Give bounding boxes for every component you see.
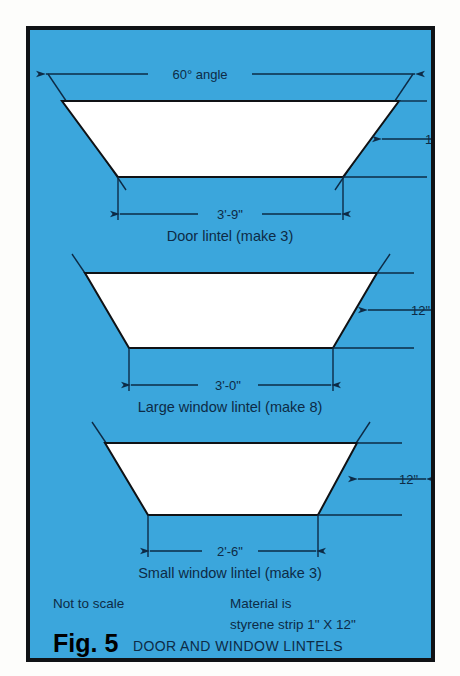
small-window-lintel-shape [105,443,357,515]
small-window-lintel-caption: Small window lintel (make 3) [138,565,322,581]
small-window-width-label: 2'-6" [217,544,243,559]
door-lintel-height-label: 12" [425,132,431,147]
small-window-width-dimension: 2'-6" [148,515,318,559]
small-window-height-label: 12" [399,472,418,487]
figure-title: DOOR AND WINDOW LINTELS [133,638,343,654]
small-window-lintel-group: 12" 2'-6" Small window lintel (make 3) [92,422,426,581]
door-lintel-width-label: 3'-9" [217,207,243,222]
material-note-line1: Material is [230,596,292,611]
figure-panel: 60° angle 12" [26,26,435,662]
material-note-line2: styrene strip 1" X 12" [230,617,356,632]
door-lintel-group: 60° angle 12" [46,67,431,244]
large-window-lintel-group: 12" 3'-0" Large window lintel (make 8) [72,254,431,415]
figure-page: 60° angle 12" [0,0,460,676]
door-lintel-width-dimension: 3'-9" [118,177,343,222]
large-window-lintel-caption: Large window lintel (make 8) [138,399,323,415]
lintel-drawing: 60° angle 12" [30,30,431,658]
large-window-height-label: 12" [411,303,430,318]
scale-note: Not to scale [53,596,124,611]
figure-number: Fig. 5 [53,629,118,657]
large-window-width-label: 3'-0" [215,378,241,393]
door-lintel-caption: Door lintel (make 3) [167,228,294,244]
door-lintel-shape [62,101,399,177]
door-lintel-angle-dimension: 60° angle [46,67,415,82]
large-window-lintel-shape [85,273,377,348]
angle-label: 60° angle [172,67,227,82]
large-window-width-dimension: 3'-0" [129,348,333,393]
